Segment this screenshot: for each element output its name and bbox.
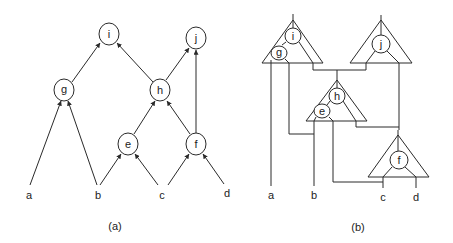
subtree-j: j — [350, 20, 412, 63]
wire-h-out — [313, 63, 366, 70]
edge-g-i — [72, 43, 100, 82]
node-e-b: e — [314, 104, 330, 118]
node-g-b-label: g — [276, 46, 282, 58]
figure-b: i g j — [262, 14, 429, 233]
node-h-label: h — [157, 84, 163, 96]
figure-b-leaves: a b c d — [268, 189, 419, 203]
node-h-b: h — [329, 88, 345, 104]
edge-c-f — [168, 154, 189, 185]
edge-d-f — [203, 154, 224, 184]
edge-h-j — [166, 48, 189, 80]
subtree-h-e: h e — [306, 80, 367, 121]
figure-a-nodes: i j g h e f — [54, 23, 206, 155]
leaf-a-label: a — [26, 189, 33, 201]
node-g-b: g — [271, 46, 287, 60]
edge-f-h — [167, 101, 190, 134]
node-j-b-label: j — [379, 38, 382, 50]
leaf-b-label: b — [95, 189, 101, 201]
node-g-label: g — [61, 83, 67, 95]
leaf-b-b-label: b — [311, 189, 317, 201]
node-j-b: j — [372, 35, 390, 53]
node-h: h — [150, 79, 170, 101]
leaf-d-label: d — [224, 187, 230, 199]
node-i: i — [99, 23, 119, 45]
subtree-f: f — [368, 135, 429, 177]
node-i-b-label: i — [292, 30, 294, 42]
leaf-c-label: c — [159, 189, 165, 201]
node-i-b: i — [285, 28, 301, 44]
node-e: e — [118, 133, 138, 155]
node-e-label: e — [125, 138, 131, 150]
leaf-d-b-label: d — [413, 191, 419, 203]
diagram-canvas: i j g h e f a b — [0, 0, 453, 243]
node-e-b-label: e — [319, 105, 325, 117]
node-i-label: i — [108, 28, 110, 40]
edge-h-i — [117, 43, 153, 82]
node-g: g — [54, 79, 74, 101]
figure-a-leaves: a b c d — [26, 187, 230, 201]
node-f: f — [186, 133, 206, 155]
node-h-b-label: h — [334, 90, 340, 102]
edge-b-g — [68, 101, 97, 185]
leaf-c-b-label: c — [380, 191, 386, 203]
node-j: j — [186, 27, 206, 49]
figure-b-caption: (b) — [351, 221, 364, 233]
figure-a: i j g h e f a b — [26, 23, 230, 232]
node-j-label: j — [194, 32, 197, 44]
edge-b-e — [100, 154, 121, 185]
wire-h-f — [356, 121, 399, 127]
leaf-a-b-label: a — [268, 189, 275, 201]
subtree-i-g: i g — [262, 20, 323, 63]
figure-a-edges — [30, 43, 224, 185]
edge-e-h — [134, 101, 155, 134]
wire-g-b — [289, 60, 314, 134]
edge-c-e — [135, 154, 158, 185]
node-f-b: f — [390, 151, 408, 169]
figure-a-caption: (a) — [108, 220, 121, 232]
edge-a-g — [30, 101, 61, 185]
